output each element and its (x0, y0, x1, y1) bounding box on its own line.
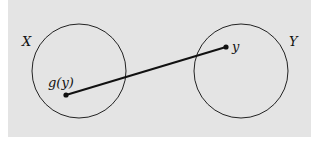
point-g-y-label: g(y) (48, 75, 74, 90)
point-y-label: y (231, 39, 240, 54)
mapping-arrow (66, 47, 226, 95)
point-y (223, 44, 228, 49)
mapping-diagram: X Y g(y) y (0, 0, 318, 145)
set-x-circle (32, 24, 126, 118)
set-y-label: Y (289, 34, 299, 49)
set-y-circle (194, 24, 288, 118)
set-x-label: X (21, 34, 32, 49)
point-g-y (63, 92, 68, 97)
